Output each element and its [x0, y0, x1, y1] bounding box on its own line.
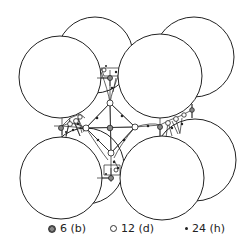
legend-label-d: 12 (d) — [121, 222, 154, 235]
legend-label-b: 6 (b) — [60, 222, 86, 235]
legend-label-h: 24 (h) — [192, 222, 225, 235]
legend-item-h: 24 (h) — [185, 222, 225, 235]
b-site-icon — [48, 225, 56, 233]
legend-item-b: 6 (b) — [48, 222, 86, 235]
legend: 6 (b) 12 (d) 24 (h) — [0, 222, 248, 240]
sphere-front-bottom-left — [20, 137, 102, 219]
sphere-front-bottom-right — [120, 136, 204, 220]
legend-item-d: 12 (d) — [110, 222, 154, 235]
d-site-icon — [110, 225, 117, 232]
sphere-front-top-right — [118, 34, 202, 118]
sphere-front-top-left — [19, 36, 101, 118]
h-site-icon — [185, 227, 188, 230]
crystal-structure-diagram — [0, 0, 248, 222]
